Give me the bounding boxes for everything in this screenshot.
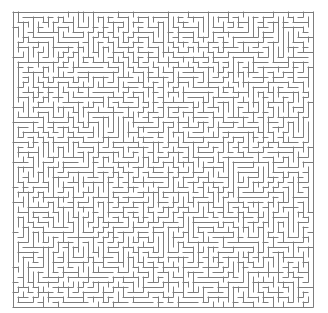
maze-figure [0, 0, 328, 313]
maze-grid [0, 0, 328, 313]
